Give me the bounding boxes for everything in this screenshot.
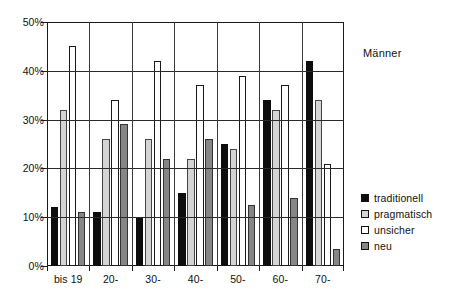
legend-label: neu — [374, 240, 392, 252]
bar-traditionell-20- — [93, 212, 100, 266]
bar-pragmatisch-40- — [187, 159, 194, 266]
legend-label: pragmatisch — [374, 208, 432, 220]
bar-unsicher-20- — [111, 100, 118, 266]
bar-traditionell-40- — [178, 193, 185, 266]
x-axis: bis 1920-30-40-50-60-70- — [47, 266, 344, 294]
bar-unsicher-60- — [281, 85, 288, 266]
legend-item-pragmatisch: pragmatisch — [361, 206, 457, 221]
x-axis-tick-label: 70- — [315, 273, 330, 285]
gridline-horizontal — [47, 217, 344, 218]
x-axis-tick-mark — [259, 266, 260, 271]
y-axis-tick-label: 50% — [2, 16, 44, 28]
legend-swatch-icon — [361, 210, 369, 218]
bar-unsicher-30- — [154, 61, 161, 266]
x-axis-tick-mark — [343, 266, 344, 271]
legend-item-neu: neu — [361, 238, 457, 253]
bar-traditionell-70- — [306, 61, 313, 266]
bar-pragmatisch-30- — [145, 139, 152, 266]
gridline-vertical — [302, 22, 303, 266]
y-axis-tick-label: 40% — [2, 65, 44, 77]
bar-traditionell-50- — [221, 144, 228, 266]
x-axis-tick-mark — [217, 266, 218, 271]
y-axis-tick-label: 20% — [2, 162, 44, 174]
gridline-vertical — [259, 22, 260, 266]
bar-unsicher-40- — [196, 85, 203, 266]
bar-neu-70- — [333, 249, 340, 266]
x-axis-tick-mark — [302, 266, 303, 271]
bar-pragmatisch-70- — [315, 100, 322, 266]
legend-swatch-icon — [361, 242, 369, 250]
gridline-horizontal — [47, 71, 344, 72]
bar-pragmatisch-20- — [102, 139, 109, 266]
plot-area — [47, 22, 344, 266]
bar-group — [259, 22, 301, 266]
x-axis-tick-mark — [174, 266, 175, 271]
x-axis-tick-mark — [89, 266, 90, 271]
x-axis-tick-label: 50- — [230, 273, 245, 285]
gridline-horizontal — [47, 168, 344, 169]
bar-group — [89, 22, 131, 266]
bar-group — [217, 22, 259, 266]
bar-neu-30- — [163, 159, 170, 266]
bar-unsicher-50- — [239, 76, 246, 266]
bar-neu-60- — [290, 198, 297, 266]
x-axis-tick-label: 20- — [103, 273, 118, 285]
legend-label: unsicher — [374, 224, 415, 236]
x-axis-tick-mark — [47, 266, 48, 271]
gridline-vertical — [89, 22, 90, 266]
bar-neu-40- — [205, 139, 212, 266]
chart-title: Männer — [363, 47, 402, 59]
y-axis-tick-label: 0% — [2, 260, 44, 272]
x-axis-tick-label: 40- — [188, 273, 203, 285]
bar-traditionell-60- — [263, 100, 270, 266]
bar-group — [47, 22, 89, 266]
bar-pragmatisch-50- — [230, 149, 237, 266]
bar-group — [174, 22, 216, 266]
bar-neu-20- — [120, 124, 127, 266]
bar-unsicher-70- — [324, 164, 331, 266]
x-axis-tick-mark — [132, 266, 133, 271]
bar-neu-bis 19 — [78, 212, 85, 266]
y-axis-tick-label: 10% — [2, 211, 44, 223]
legend-label: traditionell — [374, 192, 423, 204]
legend-swatch-icon — [361, 194, 369, 202]
bar-pragmatisch-60- — [272, 110, 279, 266]
legend-item-traditionell: traditionell — [361, 190, 457, 205]
gridline-vertical — [174, 22, 175, 266]
legend-item-unsicher: unsicher — [361, 222, 457, 237]
legend-swatch-icon — [361, 226, 369, 234]
bar-pragmatisch-bis 19 — [60, 110, 67, 266]
gridline-vertical — [132, 22, 133, 266]
gridline-horizontal — [47, 120, 344, 121]
bar-unsicher-bis 19 — [69, 46, 76, 266]
bar-traditionell-30- — [136, 217, 143, 266]
bar-neu-50- — [248, 205, 255, 266]
bars-layer — [47, 22, 344, 266]
legend: traditionell pragmatisch unsicher neu — [361, 190, 457, 254]
x-axis-tick-label: bis 19 — [54, 273, 83, 285]
x-axis-tick-label: 60- — [273, 273, 288, 285]
gridline-vertical — [217, 22, 218, 266]
bar-chart: 0%10%20%30%40%50% bis 1920-30-40-50-60-7… — [0, 0, 459, 295]
bar-group — [132, 22, 174, 266]
bar-group — [302, 22, 344, 266]
x-axis-tick-label: 30- — [145, 273, 160, 285]
y-axis: 0%10%20%30%40%50% — [0, 22, 44, 266]
y-axis-tick-label: 30% — [2, 114, 44, 126]
